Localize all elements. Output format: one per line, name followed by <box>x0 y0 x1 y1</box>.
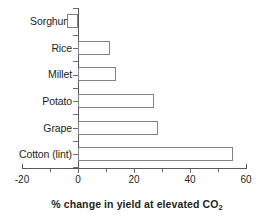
bar-millet <box>78 67 116 81</box>
value-axis-end-cap-left <box>22 164 23 169</box>
bar-row-millet: Millet <box>0 61 274 88</box>
bar-potato <box>78 94 154 108</box>
x-axis-title-subscript: 2 <box>218 203 222 212</box>
bar-row-grape: Grape <box>0 114 274 141</box>
value-axis-tick-minor <box>162 169 163 172</box>
x-axis-title-text: % change in yield at elevated CO <box>51 198 218 210</box>
bar-row-cotton: Cotton (lint) <box>0 141 274 168</box>
value-axis-tick-major <box>134 169 135 173</box>
value-axis-tick-minor <box>106 169 107 172</box>
bar-label-potato: Potato <box>42 96 72 107</box>
bar-row-sorghum: Sorghum <box>0 8 274 35</box>
bar-label-millet: Millet <box>48 69 72 80</box>
value-axis-tick-minor <box>50 169 51 172</box>
value-axis-tick-minor <box>218 169 219 172</box>
bar-series: Sorghum Rice Millet Potato Grape Cotton <box>0 8 274 168</box>
bar-sorghum <box>67 14 78 28</box>
bar-label-rice: Rice <box>51 42 72 53</box>
value-axis-label-0: 0 <box>61 174 95 185</box>
value-axis-tick-major <box>78 169 79 173</box>
plot-area: Sorghum Rice Millet Potato Grape Cotton <box>0 8 274 168</box>
value-axis-label--20: -20 <box>5 174 39 185</box>
bar-rice <box>78 41 110 55</box>
value-axis-end-cap-right <box>246 164 247 169</box>
value-axis-label-40: 40 <box>173 174 207 185</box>
value-axis-label-60: 60 <box>229 174 263 185</box>
bar-label-sorghum: Sorghum <box>30 16 72 27</box>
bar-grape <box>78 121 158 135</box>
bar-label-cotton: Cotton (lint) <box>19 149 72 160</box>
bar-row-rice: Rice <box>0 35 274 62</box>
value-axis-tick-major <box>190 169 191 173</box>
value-axis-label-20: 20 <box>117 174 151 185</box>
bar-cotton <box>78 147 233 161</box>
x-axis-title: % change in yield at elevated CO2 <box>0 198 274 212</box>
bar-chart: Sorghum Rice Millet Potato Grape Cotton <box>0 0 274 220</box>
bar-label-grape: Grape <box>43 122 72 133</box>
bar-row-potato: Potato <box>0 88 274 115</box>
